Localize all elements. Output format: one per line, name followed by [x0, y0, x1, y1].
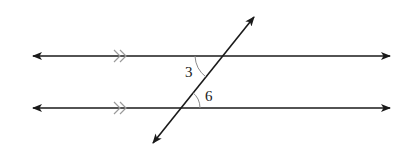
angle-3-arc [195, 56, 206, 77]
angle-6-label: 6 [205, 88, 213, 104]
transversal-line [153, 17, 254, 143]
angle-3-label: 3 [185, 64, 193, 80]
angle-6-arc [192, 92, 200, 108]
parallel-lines-diagram: 3 6 [0, 0, 412, 147]
